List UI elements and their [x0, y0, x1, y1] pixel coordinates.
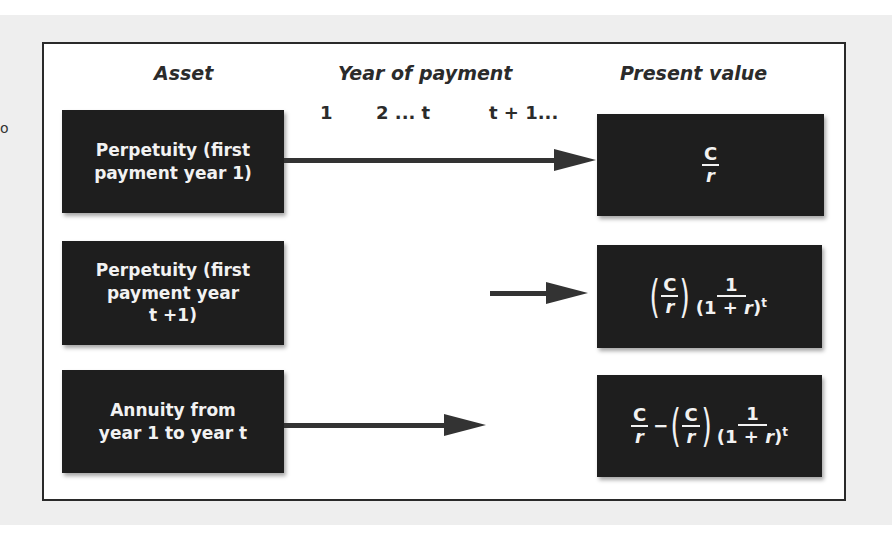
pv-formula-row-1: C r — [700, 144, 721, 186]
arrow-row-2 — [490, 291, 548, 296]
fraction-c-over-r: C r — [702, 144, 719, 186]
pv-formula-row-2: ( C r ) 1 (1 + r)t — [650, 275, 769, 319]
year-tick-1: 1 — [320, 102, 333, 123]
header-asset: Asset — [154, 62, 213, 84]
arrow-row-3 — [284, 423, 446, 428]
arrow-row-1 — [284, 158, 556, 163]
fraction-c-over-r: C r — [631, 405, 648, 447]
pv-formula-row-3: C r − ( C r ) 1 (1 + r)t — [629, 404, 790, 448]
pv-box-perpetuity-year-t-plus-1: ( C r ) 1 (1 + r)t — [597, 245, 822, 348]
stray-mark: o — [0, 120, 9, 136]
fraction-discount-factor: 1 (1 + r)t — [696, 275, 767, 318]
header-year-of-payment: Year of payment — [338, 62, 512, 84]
asset-label: Annuity from year 1 to year t — [99, 399, 247, 444]
pv-box-perpetuity-year-1: C r — [597, 114, 824, 216]
header-present-value: Present value — [620, 62, 767, 84]
asset-box-perpetuity-year-t-plus-1: Perpetuity (first payment year t +1) — [62, 241, 284, 345]
asset-label: Perpetuity (first payment year 1) — [94, 139, 252, 184]
year-tick-2-to-t: 2 ... t — [376, 102, 430, 123]
asset-box-perpetuity-year-1: Perpetuity (first payment year 1) — [62, 110, 284, 213]
asset-box-annuity-year-1-to-t: Annuity from year 1 to year t — [62, 370, 284, 473]
pv-box-annuity-year-1-to-t: C r − ( C r ) 1 (1 + r)t — [597, 375, 822, 477]
fraction-discount-factor: 1 (1 + r)t — [717, 404, 788, 447]
year-tick-t-plus-1: t + 1... — [489, 102, 558, 123]
fraction-c-over-r: C r — [682, 405, 699, 447]
minus-sign: − — [653, 414, 668, 438]
asset-label: Perpetuity (first payment year t +1) — [96, 259, 250, 326]
fraction-c-over-r: C r — [661, 275, 678, 317]
